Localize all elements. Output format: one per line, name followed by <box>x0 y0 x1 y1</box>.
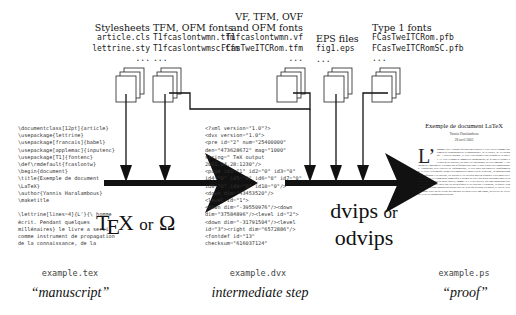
vf-file: FCasTweITCRom.tfm <box>220 44 303 55</box>
tex-filename: example.tex <box>20 268 120 278</box>
stylesheets-title: Stylesheets <box>70 22 150 33</box>
eps-group: EPS files fig1.eps ... <box>316 33 376 65</box>
proof-dropcap: L’ <box>418 148 435 164</box>
dvips-label: dvips or odvips <box>314 198 414 250</box>
eps-ellipsis: ... <box>316 55 376 66</box>
manuscript-caption: “manuscript” <box>10 285 130 301</box>
tex-omega-label: TEX or Ω <box>96 210 175 236</box>
eps-file: fig1.eps <box>316 44 376 55</box>
proof-doc-date: 28 avril 2003 <box>418 138 510 142</box>
vf-tfm-group: VF, TFM, OVF and OFM fonts T1fcaslontwmn… <box>220 11 303 65</box>
odvips-text: odvips <box>314 225 414 250</box>
or-text: or <box>139 215 153 234</box>
type1-file: FCasTweITCRom.pfb <box>372 33 482 44</box>
file-stack-type1-icon <box>372 68 400 102</box>
proof-doc-body: L’ homme écrit. Pendant quelques milléna… <box>418 148 510 196</box>
dvips-text: dvips <box>330 198 378 223</box>
stylesheet-file: lettrine.sty <box>70 44 150 55</box>
type1-title: Type 1 fonts <box>372 22 482 33</box>
vf-file: T1fcaslontwmn.vf <box>220 33 303 44</box>
omega-symbol: Ω <box>159 210 175 235</box>
tex-e: E <box>106 214 119 239</box>
stylesheet-ellipsis: ... <box>70 54 150 65</box>
stylesheet-file: article.cls <box>70 33 150 44</box>
dvips-or-text: or <box>384 203 398 222</box>
proof-doc-author: Yannis Haralambous <box>418 132 510 136</box>
proof-page-preview: Exemple de document LaTeX Yannis Haralam… <box>418 122 510 196</box>
vf-title-line1: VF, TFM, OVF <box>220 11 303 22</box>
type1-file: FCasTweITCRomSC.pfb <box>372 44 482 55</box>
type1-group: Type 1 fonts FCasTweITCRom.pfb FCasTweIT… <box>372 22 482 65</box>
proof-doc-title: Exemple de document LaTeX <box>418 122 510 129</box>
dvx-source-code: <?xml version="1.0"?> <dvx version="1.0"… <box>205 125 302 247</box>
vf-ellipsis: ... <box>220 54 303 65</box>
file-stack-eps-icon <box>324 68 352 102</box>
proof-caption: “proof” <box>420 285 510 301</box>
stylesheets-group: Stylesheets article.cls lettrine.sty ... <box>70 22 150 65</box>
file-stack-tfm-icon <box>153 68 181 102</box>
intermediate-caption: intermediate step <box>190 285 330 301</box>
file-stack-stylesheets-icon <box>116 68 144 102</box>
file-stack-vf-icon <box>277 68 305 102</box>
ps-filename: example.ps <box>414 268 514 278</box>
vf-title-line2: and OFM fonts <box>220 22 303 33</box>
dvx-filename: example.dvx <box>208 268 308 278</box>
type1-ellipsis: ... <box>372 54 482 65</box>
tex-x: X <box>118 210 134 235</box>
eps-title: EPS files <box>316 33 376 44</box>
